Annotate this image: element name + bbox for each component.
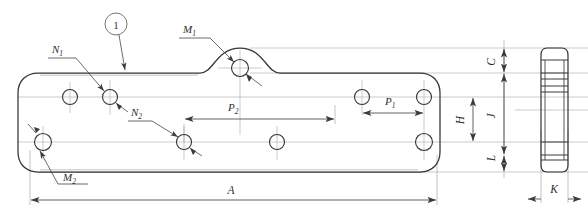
leader-N1-arrowhead-2 bbox=[116, 103, 122, 110]
leader-N1-arrow bbox=[76, 58, 104, 91]
leader-N2-arrowhead-2 bbox=[190, 148, 196, 155]
leader-balloon-1 bbox=[119, 35, 125, 70]
label-N2-sub: 2 bbox=[138, 112, 142, 121]
dimension-line-group bbox=[31, 49, 581, 200]
label-N1: N1 bbox=[51, 43, 63, 58]
balloon-callout-1[interactable]: 1 bbox=[105, 13, 127, 35]
label-P1-sub: 1 bbox=[392, 101, 396, 110]
centerline-group bbox=[18, 48, 588, 172]
label-L: L bbox=[485, 155, 497, 162]
label-A: A bbox=[226, 184, 235, 196]
label-H: H bbox=[454, 115, 466, 125]
label-M2-sub: 2 bbox=[72, 177, 76, 186]
label-M1: M1 bbox=[182, 23, 196, 38]
leader-N2-arrow bbox=[152, 121, 178, 137]
label-P2: P2 bbox=[227, 101, 239, 116]
label-C: C bbox=[485, 58, 497, 66]
leader-M2-arrow bbox=[40, 151, 58, 184]
label-N1-sub: 1 bbox=[59, 49, 63, 58]
label-P2-sub: 2 bbox=[235, 107, 239, 116]
label-N2: N2 bbox=[130, 106, 142, 121]
label-M2: M2 bbox=[62, 171, 76, 186]
leader-M1-arrowhead-2 bbox=[246, 74, 252, 82]
balloon-label: 1 bbox=[113, 19, 119, 31]
technical-drawing-canvas: 1 N1 N2 M1 bbox=[0, 0, 588, 219]
label-K: K bbox=[549, 183, 559, 195]
label-M1-sub: 1 bbox=[192, 29, 196, 38]
leader-line-group bbox=[28, 35, 262, 184]
label-J: J bbox=[485, 113, 497, 119]
